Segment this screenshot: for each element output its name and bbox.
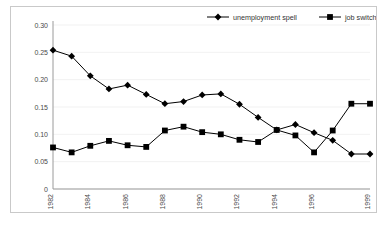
data-point-square [199, 129, 205, 135]
series-markers [50, 47, 374, 158]
data-point-square [162, 128, 168, 134]
legend-label: unemployment spell [233, 13, 297, 22]
legend-marker-square [327, 14, 333, 20]
x-tick-label: 1996 [308, 194, 315, 210]
data-point-diamond [161, 100, 168, 107]
x-tick-label: 1994 [271, 194, 278, 210]
data-point-square [367, 101, 373, 107]
chart-frame: 0.300.250.200.150.100.050 19821984198619… [10, 6, 377, 213]
y-axis-tick-labels: 0.300.250.200.150.100.050 [34, 22, 48, 193]
y-tick-label: 0.25 [34, 49, 48, 56]
line-chart: 0.300.250.200.150.100.050 19821984198619… [11, 7, 376, 212]
data-point-square [181, 124, 187, 130]
x-tick-label: 1992 [233, 194, 240, 210]
y-tick-label: 0.20 [34, 76, 48, 83]
data-point-diamond [329, 137, 336, 144]
data-point-diamond [180, 98, 187, 105]
data-point-square [50, 145, 56, 151]
data-point-square [330, 128, 336, 134]
data-point-diamond [106, 86, 113, 93]
y-tick-label: 0.15 [34, 104, 48, 111]
data-point-diamond [255, 114, 262, 121]
data-point-square [125, 142, 131, 148]
y-tick-label: 0.05 [34, 158, 48, 165]
chart-legend: unemployment spelljob switch [207, 13, 376, 22]
x-axis-tick-labels: 198219841986198819901992199419961999 [47, 194, 371, 210]
x-tick-label: 1999 [364, 194, 371, 210]
series-line-unemployment-spell [53, 50, 370, 154]
data-point-diamond [143, 91, 150, 98]
series-paths [53, 50, 370, 154]
data-point-square [293, 133, 299, 139]
data-point-diamond [367, 151, 374, 158]
data-point-diamond [292, 121, 299, 128]
data-point-diamond [199, 92, 206, 99]
gridlines [53, 25, 370, 189]
x-tick-label: 1984 [84, 194, 91, 210]
legend-marker-diamond [215, 14, 222, 21]
data-point-square [143, 144, 149, 150]
data-point-diamond [348, 151, 355, 158]
data-point-square [255, 139, 261, 145]
legend-label: job switch [344, 13, 376, 22]
data-point-square [218, 131, 224, 137]
data-point-diamond [311, 129, 318, 136]
data-point-square [87, 143, 93, 149]
y-tick-label: 0.10 [34, 131, 48, 138]
data-point-diamond [124, 82, 131, 89]
data-point-square [274, 127, 280, 133]
data-point-square [311, 149, 317, 155]
data-point-square [348, 101, 354, 107]
data-point-square [69, 149, 75, 155]
x-tick-label: 1986 [122, 194, 129, 210]
data-point-square [106, 138, 112, 144]
series-line-job-switch [53, 104, 370, 153]
y-tick-label: 0 [44, 186, 48, 193]
y-tick-label: 0.30 [34, 22, 48, 29]
x-tick-label: 1990 [196, 194, 203, 210]
x-tick-label: 1988 [159, 194, 166, 210]
data-point-square [237, 137, 243, 143]
x-tick-label: 1982 [47, 194, 54, 210]
data-point-diamond [217, 90, 224, 97]
